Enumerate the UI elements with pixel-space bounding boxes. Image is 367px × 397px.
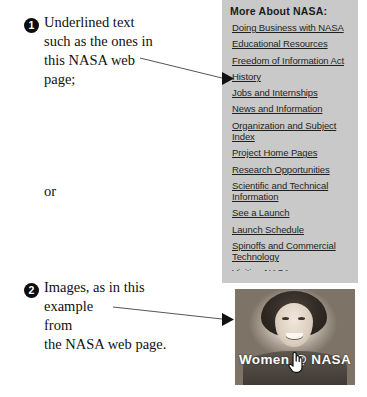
nasa-web-page-panel: National Aero More About NASA: Doing Bus… — [222, 0, 358, 283]
nasa-link-project-home-pages[interactable]: Project Home Pages — [232, 147, 356, 158]
nasa-link-spinoffs-and-commercial-technology[interactable]: Spinoffs and Commercial Technology — [232, 240, 356, 262]
panel-heading-more-about-nasa: More About NASA: — [230, 5, 327, 17]
hand-pointer-cursor-icon — [286, 349, 306, 375]
annotation-marker-1: 1 — [24, 18, 39, 33]
nasa-link-educational-resources[interactable]: Educational Resources — [232, 38, 356, 49]
nasa-link-research-opportunities[interactable]: Research Opportunities — [232, 164, 356, 175]
nasa-link-scientific-and-technical-information[interactable]: Scientific and Technical Information — [232, 180, 356, 202]
annotation-2-line-1: Images, as in this — [44, 279, 145, 295]
nasa-link-launch-schedule[interactable]: Launch Schedule — [232, 224, 356, 235]
photo-eye-left — [282, 317, 289, 320]
nasa-link-history[interactable]: History — [232, 71, 356, 82]
annotation-1-underlined-text: 1Underlined text such as the ones in thi… — [24, 13, 204, 89]
annotation-2-line-2: example — [44, 298, 93, 314]
photo-smile — [286, 333, 303, 340]
nasa-link-freedom-of-information-act[interactable]: Freedom of Information Act — [232, 55, 356, 66]
annotation-1-line-2: such as the ones in — [44, 33, 153, 49]
nasa-link-see-a-launch[interactable]: See a Launch — [232, 207, 356, 218]
annotation-2-images: 2Images, as in this example from the NAS… — [24, 278, 214, 354]
annotation-1-line-3: this NASA web — [44, 52, 135, 68]
nasa-link-list: Doing Business with NASA Educational Res… — [232, 22, 356, 271]
annotation-2-line-3: from — [44, 317, 72, 333]
annotation-2-line-4: the NASA web page. — [44, 336, 166, 352]
women-at-nasa-photo[interactable]: Women @ NASA — [235, 289, 355, 385]
nasa-link-clipped-partial[interactable]: Visiting NASA — [232, 267, 356, 271]
annotation-1-line-1: Underlined text — [44, 14, 135, 30]
nasa-link-jobs-and-internships[interactable]: Jobs and Internships — [232, 87, 356, 98]
annotation-marker-2: 2 — [24, 283, 39, 298]
connector-or-text: or — [44, 183, 56, 200]
annotation-1-line-4: page; — [44, 71, 75, 87]
photo-eye-right — [298, 317, 305, 320]
nasa-link-organization-and-subject-index[interactable]: Organization and Subject Index — [232, 120, 356, 142]
nasa-link-news-and-information[interactable]: News and Information — [232, 103, 356, 114]
nasa-link-doing-business[interactable]: Doing Business with NASA — [232, 22, 356, 33]
